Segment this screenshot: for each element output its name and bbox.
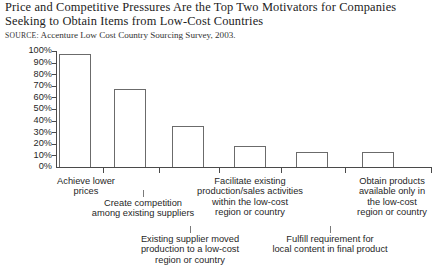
y-tick-mark bbox=[52, 97, 56, 98]
category-label-line: prices bbox=[31, 186, 141, 196]
category-label-line: available only in bbox=[342, 186, 442, 196]
category-label-line: region or country bbox=[342, 207, 442, 217]
y-tick-mark bbox=[52, 109, 56, 110]
y-tick-mark bbox=[52, 144, 56, 145]
bar bbox=[362, 152, 394, 167]
x-axis-separator bbox=[345, 167, 346, 173]
y-tick-label: 30% bbox=[18, 128, 52, 137]
y-tick-label: 60% bbox=[18, 93, 52, 102]
x-axis-separator bbox=[281, 167, 282, 173]
category-label-line: Fulfill requirement for bbox=[255, 234, 405, 244]
bar bbox=[172, 126, 204, 167]
category-label-line: Create competition bbox=[78, 198, 208, 208]
chart-page: Price and Competitive Pressures Are the … bbox=[0, 0, 443, 277]
category-label-line: Obtain products bbox=[342, 176, 442, 186]
x-axis-line bbox=[56, 167, 431, 168]
category-label-line: the low-cost bbox=[342, 197, 442, 207]
y-tick-mark bbox=[52, 121, 56, 122]
category-label: Obtain productsavailable only inthe low-… bbox=[342, 176, 442, 218]
category-label-line: region or country bbox=[123, 255, 258, 265]
bar bbox=[59, 54, 91, 167]
x-axis-separator bbox=[431, 167, 432, 173]
y-tick-label: 10% bbox=[18, 151, 52, 160]
y-tick-label: 0% bbox=[18, 162, 52, 171]
x-axis-separator bbox=[219, 167, 220, 173]
y-tick-mark bbox=[52, 51, 56, 52]
y-tick-label: 80% bbox=[18, 70, 52, 79]
plot-area: 100%90%80%70%60%50%40%30%20%10%0% bbox=[0, 48, 443, 173]
y-tick-mark bbox=[52, 132, 56, 133]
bar bbox=[114, 89, 146, 167]
category-label-line: Existing supplier moved bbox=[123, 234, 258, 244]
y-tick-mark bbox=[52, 155, 56, 156]
y-tick-label: 20% bbox=[18, 139, 52, 148]
y-tick-label: 50% bbox=[18, 104, 52, 113]
label-leader-line bbox=[330, 226, 331, 233]
bar bbox=[296, 152, 328, 167]
y-tick-mark bbox=[52, 63, 56, 64]
y-axis-line bbox=[56, 51, 57, 168]
category-label: Facilitate existingproduction/sales acti… bbox=[190, 176, 310, 218]
page-title-line-2: Seeking to Obtain Items from Low-Cost Co… bbox=[5, 15, 439, 29]
y-tick-mark bbox=[52, 74, 56, 75]
y-tick-mark bbox=[52, 86, 56, 87]
label-leader-line bbox=[190, 226, 191, 233]
x-axis-separator bbox=[159, 167, 160, 173]
bar bbox=[234, 146, 266, 167]
label-leader-line bbox=[143, 190, 144, 197]
source-label: SOURCE: bbox=[5, 31, 39, 40]
source-note: SOURCE: Accenture Low Cost Country Sourc… bbox=[5, 30, 439, 41]
y-tick-label: 40% bbox=[18, 116, 52, 125]
page-title-line-1: Price and Competitive Pressures Are the … bbox=[5, 1, 439, 15]
category-label: Existing supplier movedproduction to a l… bbox=[123, 234, 258, 265]
title-block: Price and Competitive Pressures Are the … bbox=[5, 1, 439, 41]
category-label: Achieve lowerprices bbox=[31, 176, 141, 197]
category-label-line: Achieve lower bbox=[31, 176, 141, 186]
category-label-line: region or country bbox=[190, 207, 310, 217]
y-tick-label: 70% bbox=[18, 81, 52, 90]
y-tick-label: 100% bbox=[18, 46, 52, 55]
y-tick-label: 90% bbox=[18, 58, 52, 67]
category-label-line: among existing suppliers bbox=[78, 208, 208, 218]
category-label-line: Facilitate existing bbox=[190, 176, 310, 186]
x-axis-separator bbox=[103, 167, 104, 173]
category-label-line: production/sales activities bbox=[190, 186, 310, 196]
category-label-line: within the low-cost bbox=[190, 197, 310, 207]
category-label-line: production to a low-cost bbox=[123, 244, 258, 254]
category-label-line: local content in final product bbox=[255, 244, 405, 254]
category-label: Create competitionamong existing supplie… bbox=[78, 198, 208, 219]
source-text: Accenture Low Cost Country Sourcing Surv… bbox=[41, 30, 236, 40]
category-label: Fulfill requirement forlocal content in … bbox=[255, 234, 405, 255]
